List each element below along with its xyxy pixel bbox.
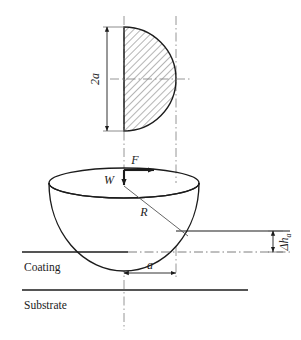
label-coating: Coating xyxy=(24,261,61,274)
diagram-svg: 2a R F W a Δha Coating Substrate xyxy=(0,0,301,340)
label-F: F xyxy=(130,153,139,167)
label-W: W xyxy=(104,173,115,187)
svg-text:Δha: Δha xyxy=(277,233,293,251)
label-delta-h: Δha xyxy=(277,233,293,251)
label-2a: 2a xyxy=(88,73,102,85)
label-delta-h-sub: a xyxy=(284,233,293,237)
label-delta-h-main: Δh xyxy=(277,237,291,251)
label-a: a xyxy=(147,258,153,272)
label-substrate: Substrate xyxy=(24,299,67,311)
figure-canvas: 2a R F W a Δha Coating Substrate xyxy=(0,0,301,340)
label-R: R xyxy=(139,205,148,219)
